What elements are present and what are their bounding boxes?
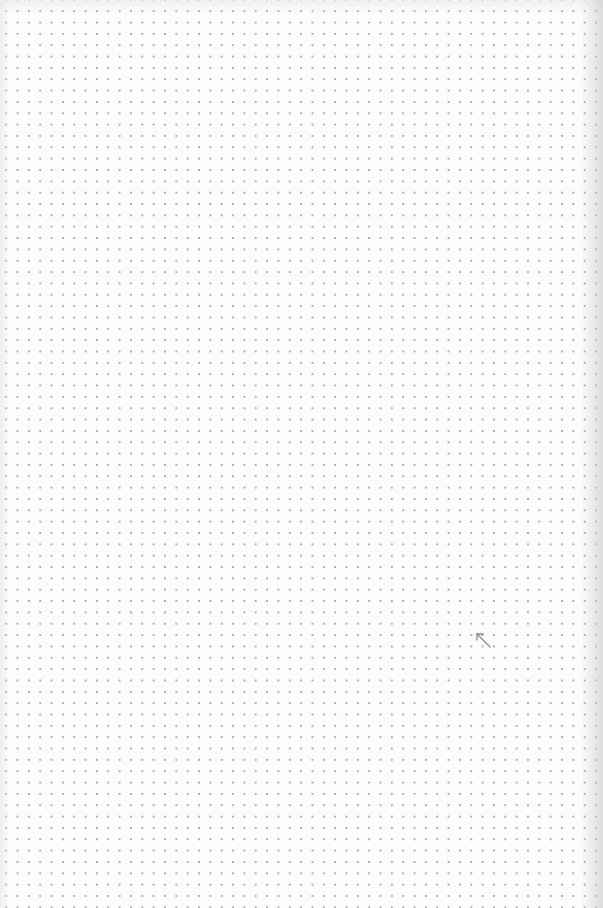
arrow-up-left-icon (474, 631, 492, 649)
top-shadow (0, 0, 603, 14)
dot-grid-paper (0, 0, 603, 908)
left-shadow (0, 0, 10, 908)
